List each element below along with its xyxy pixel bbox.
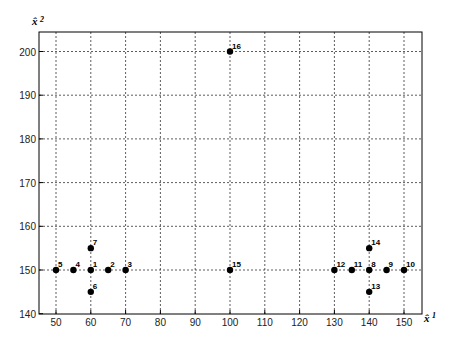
- point-label: 1: [93, 260, 98, 269]
- x-tick-label: 150: [396, 317, 413, 328]
- x-axis-label: x̂ 1: [423, 311, 436, 324]
- svg-text:x̂: x̂: [31, 15, 38, 27]
- svg-text:x̂: x̂: [423, 312, 430, 324]
- scatter-chart: 5060708090100110120130140150140150160170…: [0, 0, 457, 342]
- x-tick-label: 100: [222, 317, 239, 328]
- axis-ticks: 5060708090100110120130140150140150160170…: [19, 47, 412, 329]
- point-label: 14: [371, 238, 380, 247]
- y-axis-label: x̂ 2: [31, 15, 44, 27]
- y-tick-label: 150: [19, 265, 36, 276]
- point-label: 2: [110, 260, 115, 269]
- data-points: 12345678910111213141516: [53, 42, 416, 296]
- y-tick-label: 140: [19, 309, 36, 320]
- point-label: 12: [336, 260, 345, 269]
- point-label: 15: [232, 260, 241, 269]
- point-label: 9: [389, 260, 394, 269]
- x-tick-label: 50: [50, 317, 62, 328]
- point-label: 8: [371, 260, 376, 269]
- point-label: 10: [406, 260, 415, 269]
- point-label: 3: [128, 260, 133, 269]
- x-tick-label: 110: [257, 317, 273, 328]
- point-label: 6: [93, 282, 98, 291]
- x-tick-label: 60: [85, 317, 97, 328]
- x-tick-label: 130: [326, 317, 343, 328]
- svg-text:1: 1: [432, 311, 436, 320]
- x-tick-label: 70: [120, 317, 132, 328]
- x-tick-label: 140: [361, 317, 378, 328]
- point-label: 11: [354, 260, 363, 269]
- point-label: 5: [58, 260, 63, 269]
- y-tick-label: 160: [19, 221, 36, 232]
- point-label: 4: [75, 260, 80, 269]
- x-tick-label: 90: [190, 317, 202, 328]
- x-tick-label: 120: [291, 317, 308, 328]
- y-tick-label: 190: [19, 90, 36, 101]
- point-label: 16: [232, 42, 241, 51]
- y-tick-label: 170: [19, 178, 36, 189]
- y-tick-label: 180: [19, 134, 36, 145]
- svg-text:2: 2: [39, 15, 44, 24]
- x-tick-label: 80: [155, 317, 167, 328]
- point-label: 7: [93, 238, 98, 247]
- y-tick-label: 200: [19, 47, 36, 58]
- point-label: 13: [371, 282, 380, 291]
